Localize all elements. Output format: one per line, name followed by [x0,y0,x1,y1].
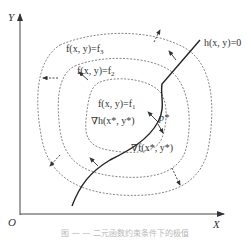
arrow-lower-left [50,155,60,166]
label-grad-f: ∇f(x*, y*) [131,142,173,154]
arrow-constraint-normal [90,158,98,166]
y-axis-label: Y [8,11,16,23]
constrained-extremum-diagram: Y X O f(x, y)=f3 f(x, y)=f2 f(x, y)=f1 h… [0,0,251,240]
label-f3: f(x, y)=f3 [66,43,104,56]
arrow-grad-f [158,124,163,133]
arrow-grad-h [148,112,158,122]
origin-label: O [8,216,16,228]
arrow-top [154,30,160,42]
label-grad-h: ∇h(x*, y*) [91,115,135,127]
label-f1: f(x, y)=f1 [98,98,136,111]
label-point: p* [158,112,169,123]
x-axis-label: X [212,218,221,230]
label-constraint: h(x, y)=0 [204,37,241,49]
arrow-upper-right [169,51,176,60]
figure-caption: 图 — — 二元函数约束条件下的极值 [61,228,189,238]
label-f2: f(x, y)=f2 [77,65,115,78]
arrow-lower-right [172,168,180,185]
